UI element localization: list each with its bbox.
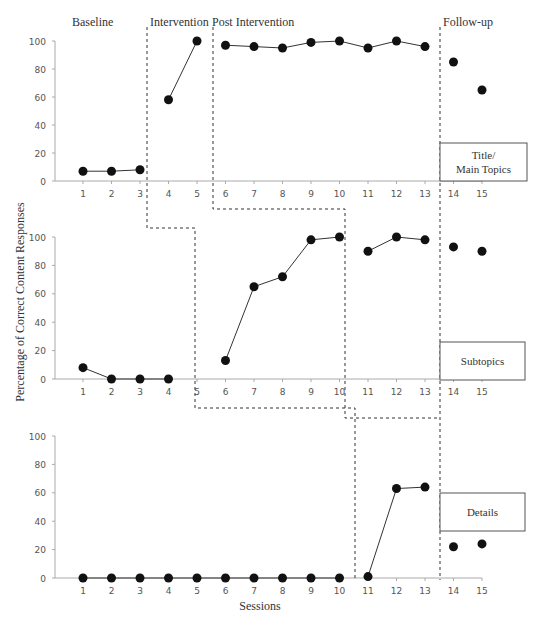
x-tick-label: 15 <box>476 586 487 596</box>
data-point <box>221 356 230 365</box>
y-tick-label: 0 <box>40 574 46 584</box>
panel-label-text: Details <box>467 506 498 518</box>
x-tick-label: 4 <box>166 189 172 199</box>
data-point <box>335 233 344 242</box>
data-point <box>364 572 373 581</box>
data-point <box>107 375 116 384</box>
panel-label-box: Subtopics <box>440 342 525 380</box>
series-line <box>226 237 340 361</box>
data-point <box>193 37 202 46</box>
data-point <box>364 247 373 256</box>
x-tick-label: 1 <box>80 387 86 397</box>
x-tick-label: 3 <box>137 586 143 596</box>
data-point <box>421 42 430 51</box>
y-tick-label: 40 <box>35 121 47 131</box>
panel-label-box: Title/Main Topics <box>440 143 527 181</box>
y-tick-label: 60 <box>35 93 47 103</box>
panel-label-text: Main Topics <box>456 163 511 175</box>
data-point <box>421 235 430 244</box>
y-tick-label: 40 <box>35 517 47 527</box>
y-axis-label: Percentage of Correct Content Responses <box>13 202 27 402</box>
panel-subtopics: 020406080100123456789101112131415 <box>29 233 488 398</box>
data-point <box>421 483 430 492</box>
panel-details: 020406080100123456789101112131415 <box>29 432 488 597</box>
x-tick-label: 4 <box>166 387 172 397</box>
data-point <box>136 165 145 174</box>
y-tick-label: 60 <box>35 289 47 299</box>
phase-label-post-intervention: Post Intervention <box>212 15 294 29</box>
x-tick-label: 14 <box>448 586 460 596</box>
data-point <box>164 574 173 583</box>
phase-line-1 <box>147 27 355 580</box>
data-point <box>79 363 88 372</box>
data-point <box>449 58 458 67</box>
data-point <box>250 42 259 51</box>
series-line <box>368 487 425 576</box>
data-point <box>335 37 344 46</box>
data-point <box>478 539 487 548</box>
phase-line-2 <box>213 27 440 418</box>
data-point <box>107 167 116 176</box>
data-point <box>307 235 316 244</box>
panel-label-text: Title/ <box>472 149 496 161</box>
x-tick-label: 5 <box>194 189 200 199</box>
data-point <box>164 375 173 384</box>
data-point <box>449 542 458 551</box>
y-tick-label: 40 <box>35 318 47 328</box>
panel-label-boxes: Title/Main TopicsSubtopicsDetails <box>440 143 527 531</box>
x-tick-label: 2 <box>109 387 115 397</box>
y-tick-label: 20 <box>35 346 47 356</box>
x-tick-label: 12 <box>391 189 402 199</box>
data-point <box>392 484 401 493</box>
x-tick-label: 14 <box>448 387 460 397</box>
data-point <box>307 38 316 47</box>
x-tick-label: 11 <box>362 189 373 199</box>
series-line <box>83 368 169 379</box>
phase-change-lines <box>147 27 440 580</box>
x-tick-label: 6 <box>223 387 229 397</box>
y-tick-label: 20 <box>35 149 47 159</box>
y-tick-label: 100 <box>29 233 46 243</box>
data-point <box>278 574 287 583</box>
x-tick-label: 13 <box>419 189 430 199</box>
x-tick-label: 2 <box>109 189 115 199</box>
data-point <box>250 282 259 291</box>
x-tick-label: 10 <box>334 387 346 397</box>
data-point <box>478 86 487 95</box>
x-tick-label: 7 <box>251 387 257 397</box>
x-tick-label: 12 <box>391 387 402 397</box>
x-tick-label: 1 <box>80 189 86 199</box>
y-tick-label: 0 <box>40 375 46 385</box>
data-point <box>221 41 230 50</box>
data-point <box>364 44 373 53</box>
y-tick-label: 100 <box>29 432 46 442</box>
phase-label-intervention: Intervention <box>150 15 209 29</box>
x-tick-label: 11 <box>362 387 373 397</box>
y-tick-label: 80 <box>35 460 47 470</box>
x-tick-label: 15 <box>476 387 487 397</box>
x-tick-label: 13 <box>419 387 430 397</box>
x-tick-label: 10 <box>334 586 346 596</box>
x-axis-label: Sessions <box>239 599 281 613</box>
data-point <box>164 95 173 104</box>
y-tick-label: 60 <box>35 488 47 498</box>
x-tick-label: 14 <box>448 189 460 199</box>
y-tick-label: 20 <box>35 545 47 555</box>
panels: 0204060801001234567891011121314150204060… <box>29 37 488 597</box>
multiple-baseline-chart: Baseline Intervention Post Intervention … <box>0 0 540 623</box>
data-point <box>193 574 202 583</box>
data-point <box>136 375 145 384</box>
data-point <box>136 574 145 583</box>
data-point <box>79 574 88 583</box>
phase-labels: Baseline Intervention Post Intervention … <box>72 15 493 29</box>
data-point <box>107 574 116 583</box>
x-tick-label: 7 <box>251 586 257 596</box>
phase-label-follow-up: Follow-up <box>443 15 493 29</box>
panel-label-text: Subtopics <box>461 355 504 367</box>
data-point <box>278 272 287 281</box>
y-tick-label: 80 <box>35 65 47 75</box>
data-point <box>307 574 316 583</box>
x-tick-label: 15 <box>476 189 487 199</box>
data-point <box>449 242 458 251</box>
x-tick-label: 12 <box>391 586 402 596</box>
